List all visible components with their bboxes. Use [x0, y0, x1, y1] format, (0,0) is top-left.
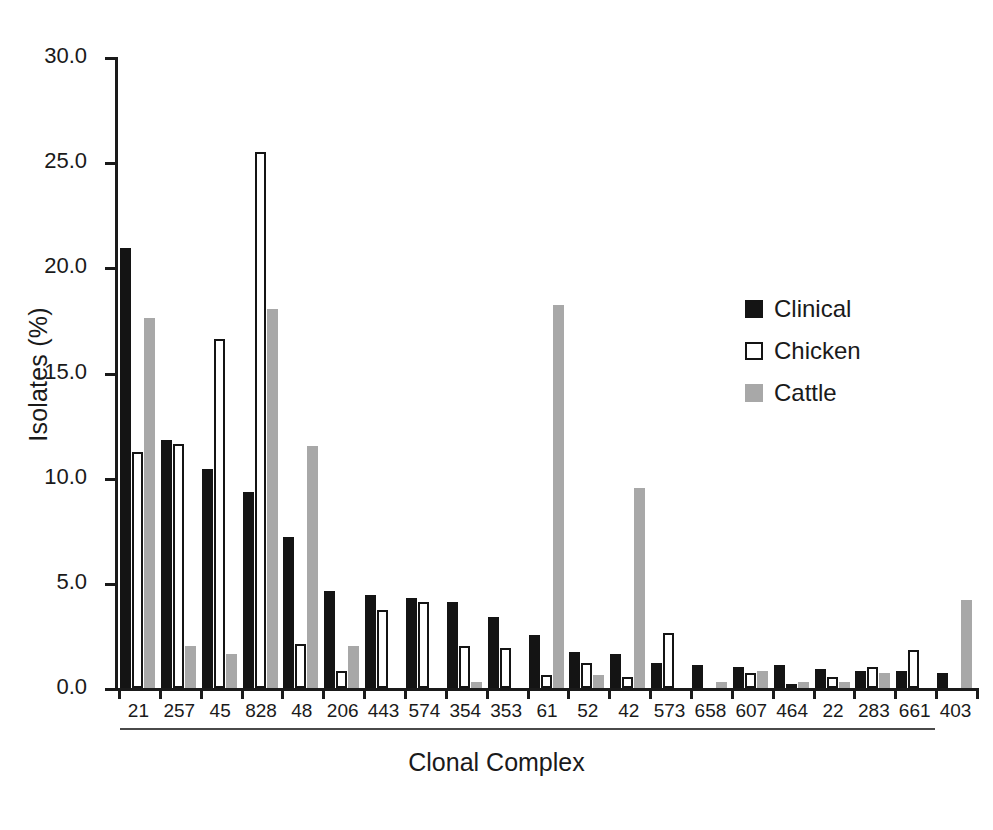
- bar-clinical-464: [774, 665, 785, 688]
- bar-cattle-828: [267, 309, 278, 688]
- y-axis-tick-label: 10.0: [44, 464, 87, 490]
- y-axis-tick: 25.0: [105, 162, 116, 165]
- bar-cattle-206: [348, 646, 359, 688]
- bar-group: [692, 57, 733, 688]
- y-axis-tick: 30.0: [105, 57, 116, 60]
- bar-cattle-658: [716, 682, 727, 688]
- bar-clinical-257: [161, 440, 172, 688]
- x-axis-tick: [281, 688, 284, 699]
- bar-chicken-21: [132, 452, 143, 688]
- x-axis-category-42: 42: [618, 700, 639, 722]
- y-axis-tick: 20.0: [105, 267, 116, 270]
- bar-chicken-573: [663, 633, 674, 688]
- bar-clinical-48: [283, 537, 294, 688]
- bar-clinical-22: [815, 669, 826, 688]
- bar-group: [161, 57, 202, 688]
- legend-label: Cattle: [774, 379, 837, 407]
- legend-item-cattle: Cattle: [745, 372, 861, 414]
- x-axis-tick: [976, 688, 979, 699]
- x-axis-category-45: 45: [210, 700, 231, 722]
- bar-chicken-283: [867, 667, 878, 688]
- x-axis-category-353: 353: [490, 700, 522, 722]
- x-axis-category-206: 206: [327, 700, 359, 722]
- x-axis-tick: [772, 688, 775, 699]
- x-axis-category-464: 464: [776, 700, 808, 722]
- x-axis-tick: [486, 688, 489, 699]
- legend-swatch-icon-cattle: [745, 384, 763, 402]
- x-axis-tick: [118, 688, 121, 699]
- y-axis-tick: 15.0: [105, 373, 116, 376]
- x-axis-tick: [404, 688, 407, 699]
- bar-chicken-42: [622, 677, 633, 688]
- x-axis-category-22: 22: [822, 700, 843, 722]
- y-axis-tick-label: 30.0: [44, 43, 87, 69]
- x-axis-tick: [649, 688, 652, 699]
- bar-group: [406, 57, 447, 688]
- bar-chicken-464: [786, 684, 797, 688]
- bar-chicken-353: [500, 648, 511, 688]
- bar-group: [283, 57, 324, 688]
- y-axis-tick-label: 20.0: [44, 254, 87, 280]
- x-axis-category-labels: 2125745828482064435743543536152425736586…: [118, 700, 993, 730]
- x-axis-category-573: 573: [654, 700, 686, 722]
- bar-cattle-257: [185, 646, 196, 688]
- bar-group: [243, 57, 284, 688]
- bar-clinical-607: [733, 667, 744, 688]
- bar-chicken-574: [418, 602, 429, 688]
- x-axis-tick: [608, 688, 611, 699]
- y-axis-tick: 0.0: [105, 688, 116, 691]
- x-axis-tick: [853, 688, 856, 699]
- bar-group: [937, 57, 978, 688]
- bar-cattle-48: [307, 446, 318, 688]
- x-axis-tick: [200, 688, 203, 699]
- x-axis-category-48: 48: [291, 700, 312, 722]
- bar-cattle-21: [144, 318, 155, 688]
- x-axis-category-52: 52: [577, 700, 598, 722]
- bar-group: [120, 57, 161, 688]
- bar-cattle-52: [593, 675, 604, 688]
- x-axis-category-828: 828: [245, 700, 277, 722]
- chart-legend: ClinicalChickenCattle: [745, 288, 861, 414]
- bar-clinical-21: [120, 248, 131, 688]
- bar-chart-figure: Isolates (%) 0.05.010.015.020.025.030.0 …: [0, 0, 993, 830]
- bar-group: [896, 57, 937, 688]
- bar-group: [529, 57, 570, 688]
- x-axis-tick: [567, 688, 570, 699]
- bar-clinical-443: [365, 595, 376, 688]
- x-axis-tick: [527, 688, 530, 699]
- y-axis-tick: 5.0: [105, 583, 116, 586]
- x-axis-category-257: 257: [163, 700, 195, 722]
- x-axis-tick: [894, 688, 897, 699]
- bar-chicken-607: [745, 673, 756, 688]
- bar-chicken-257: [173, 444, 184, 688]
- bar-clinical-42: [610, 654, 621, 688]
- x-axis-category-21: 21: [128, 700, 149, 722]
- bar-group: [855, 57, 896, 688]
- legend-label: Chicken: [774, 337, 861, 365]
- bar-clinical-61: [529, 635, 540, 688]
- bar-cattle-283: [879, 673, 890, 688]
- bar-cattle-61: [553, 305, 564, 688]
- bar-clinical-52: [569, 652, 580, 688]
- bar-group: [447, 57, 488, 688]
- bar-cattle-42: [634, 488, 645, 688]
- bar-chicken-45: [214, 339, 225, 688]
- bar-cattle-22: [839, 682, 850, 688]
- y-axis-tick-label: 15.0: [44, 359, 87, 385]
- x-axis-category-354: 354: [449, 700, 481, 722]
- bar-chicken-206: [336, 671, 347, 688]
- bar-clinical-206: [324, 591, 335, 688]
- x-axis-category-61: 61: [536, 700, 557, 722]
- x-axis-line: [115, 688, 976, 691]
- bar-group: [365, 57, 406, 688]
- y-axis-tick-label: 0.0: [56, 674, 87, 700]
- bar-chicken-48: [295, 644, 306, 688]
- bar-clinical-661: [896, 671, 907, 688]
- bar-cattle-464: [798, 682, 809, 688]
- x-axis-category-283: 283: [858, 700, 890, 722]
- bar-chicken-828: [255, 152, 266, 688]
- bar-group: [569, 57, 610, 688]
- bar-group: [324, 57, 365, 688]
- legend-swatch-icon-clinical: [745, 300, 763, 318]
- x-axis-category-658: 658: [695, 700, 727, 722]
